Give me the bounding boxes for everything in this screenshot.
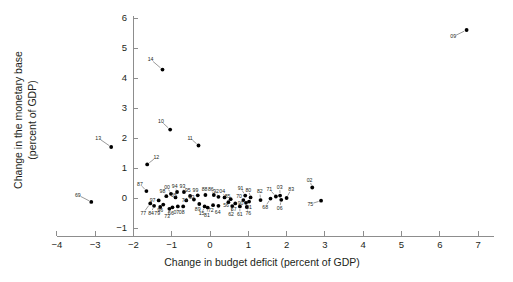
data-point-label: 88 — [202, 186, 208, 192]
point-leader-line — [81, 196, 89, 200]
point-leader-line — [313, 201, 318, 203]
data-point — [203, 205, 207, 209]
data-point — [310, 186, 314, 190]
x-tick-label: 0 — [207, 239, 212, 250]
data-point-label: 77 — [140, 210, 146, 216]
data-point — [217, 195, 221, 199]
y-axis-ticks — [133, 18, 138, 228]
data-point-label: 81 — [204, 212, 210, 218]
data-point — [269, 197, 273, 201]
data-point — [279, 198, 283, 202]
y-tick-label: 6 — [122, 12, 127, 23]
data-point — [89, 200, 93, 204]
data-point-label: 68 — [262, 204, 268, 210]
x-tick-label: 2 — [284, 239, 289, 250]
data-point — [204, 193, 208, 197]
x-axis: −4−3−2−101234567 Change in budget defici… — [51, 231, 494, 268]
y-axis-tick-labels: −10123456 — [116, 12, 127, 233]
x-tick-label: 5 — [399, 239, 404, 250]
data-point — [233, 202, 237, 206]
data-point-label: 61 — [237, 211, 243, 217]
point-leader-line — [101, 140, 109, 146]
data-point — [109, 145, 113, 149]
data-point — [247, 200, 251, 204]
data-point-label: 94 — [172, 183, 178, 189]
data-point — [465, 28, 469, 32]
point-leader-line — [288, 192, 290, 196]
data-point — [319, 199, 323, 203]
data-point-label: 67 — [231, 206, 237, 212]
data-point-label: 08 — [179, 209, 185, 215]
y-axis: −10123456 Change in the monetary base (p… — [12, 12, 138, 236]
y-tick-label: 3 — [122, 102, 127, 113]
data-point-label: 75 — [307, 201, 313, 207]
y-tick-label: 2 — [122, 132, 127, 143]
data-point-labels: 0914101113128769027583037106688280917090… — [75, 33, 456, 218]
data-point — [145, 163, 149, 167]
data-point-label: 89 — [195, 206, 201, 212]
point-leader-line — [271, 191, 274, 194]
data-point — [176, 205, 180, 209]
data-point-label: 13 — [95, 135, 101, 141]
data-point-label: 09 — [450, 33, 456, 39]
point-leader-line — [242, 191, 244, 194]
data-point-label: 82 — [257, 188, 263, 194]
data-point-label: 85 — [225, 193, 231, 199]
data-point — [196, 193, 200, 197]
x-tick-label: 4 — [361, 239, 366, 250]
data-point — [243, 194, 247, 198]
x-tick-label: −4 — [51, 239, 62, 250]
data-point-label: 11 — [187, 135, 192, 141]
data-point — [152, 204, 156, 208]
point-leader-line — [163, 123, 168, 127]
data-point-label: 84 — [148, 210, 154, 216]
data-point — [164, 194, 168, 198]
point-leader-line — [169, 190, 170, 192]
data-point — [285, 196, 289, 200]
data-point-label: 06 — [277, 205, 283, 211]
data-point-label: 71 — [266, 186, 272, 192]
data-point-label: 79 — [154, 210, 160, 216]
data-point — [249, 196, 253, 200]
data-point-label: 76 — [245, 210, 251, 216]
x-axis-tick-labels: −4−3−2−101234567 — [51, 239, 480, 250]
data-point-label: 07 — [173, 209, 179, 215]
data-point-label: 64 — [215, 209, 221, 215]
x-axis-title: Change in budget deficit (percent of GDP… — [164, 256, 360, 268]
data-point-label: 73 — [164, 213, 170, 219]
data-point-label: 83 — [288, 186, 294, 192]
data-point-label: 05 — [171, 192, 177, 198]
point-leader-line — [142, 186, 145, 189]
data-point-label: 10 — [158, 118, 164, 124]
data-point-label: 98 — [160, 188, 166, 194]
data-point-label: 99 — [193, 187, 199, 193]
x-tick-label: 1 — [246, 239, 251, 250]
data-point-label: 03 — [277, 184, 283, 190]
point-leader-line — [153, 61, 160, 67]
data-point-label: 93 — [180, 183, 186, 189]
chart-canvas: −4−3−2−101234567 Change in budget defici… — [0, 0, 513, 282]
data-point-label: 86 — [208, 186, 214, 192]
point-leader-line — [192, 140, 196, 144]
data-point — [145, 189, 149, 193]
scatter-chart-figure: −4−3−2−101234567 Change in budget defici… — [0, 0, 513, 282]
y-tick-label: 1 — [122, 162, 127, 173]
data-point-label: 01 — [246, 204, 252, 210]
data-point-label: 91 — [238, 185, 244, 191]
data-point — [161, 68, 165, 72]
x-tick-label: −2 — [128, 239, 139, 250]
data-point-label: 90 — [238, 200, 244, 206]
data-point — [259, 198, 263, 202]
data-point-label: 02 — [307, 177, 313, 183]
x-tick-label: −1 — [166, 239, 177, 250]
data-point — [197, 144, 201, 148]
x-tick-label: −3 — [90, 239, 101, 250]
y-tick-label: 4 — [122, 72, 127, 83]
data-point — [217, 204, 221, 208]
data-point — [168, 128, 172, 132]
x-tick-label: 7 — [475, 239, 480, 250]
data-point — [181, 205, 185, 209]
data-point-label: 63 — [189, 194, 195, 200]
data-point-label: 56 — [223, 202, 229, 208]
y-tick-label: 5 — [122, 42, 127, 53]
